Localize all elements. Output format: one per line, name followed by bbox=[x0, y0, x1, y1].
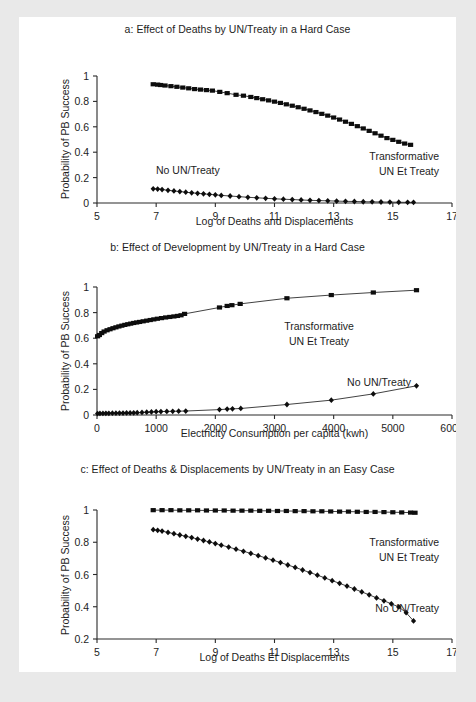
y-tick-label: 0.2 bbox=[74, 383, 89, 395]
data-point bbox=[144, 409, 149, 415]
series-line-0 bbox=[153, 84, 410, 145]
panel-a-plot: 00.20.40.60.8157911131517Log of Deaths a… bbox=[19, 17, 456, 235]
data-point bbox=[270, 557, 275, 563]
data-point bbox=[155, 527, 160, 533]
data-point bbox=[367, 129, 372, 133]
annotation-transformative-line2: UN Et Treaty bbox=[379, 165, 440, 177]
axis-lines bbox=[97, 510, 452, 639]
x-axis-label: Log of Deaths and Displacements bbox=[196, 215, 354, 227]
annotation-no-un-treaty: No UN/Treaty bbox=[347, 376, 412, 388]
data-point bbox=[238, 406, 243, 412]
data-point bbox=[346, 510, 351, 514]
data-point bbox=[213, 508, 218, 512]
data-point bbox=[219, 192, 224, 198]
x-axis-label: Electricity Consumption per capita (kwh) bbox=[181, 427, 368, 439]
data-point bbox=[367, 592, 372, 598]
data-point bbox=[284, 296, 289, 300]
data-point bbox=[230, 406, 235, 412]
data-point bbox=[248, 95, 253, 99]
x-tick-label: 15 bbox=[387, 646, 399, 658]
data-point bbox=[225, 304, 230, 308]
data-point bbox=[322, 575, 327, 581]
annotation-transformative: Transformative bbox=[284, 320, 354, 332]
data-point bbox=[159, 508, 164, 512]
data-point bbox=[300, 567, 305, 573]
data-point bbox=[155, 186, 160, 192]
data-point bbox=[201, 538, 206, 544]
data-point bbox=[241, 94, 246, 98]
y-tick-label: 0 bbox=[83, 197, 89, 209]
data-point bbox=[230, 509, 235, 513]
data-point bbox=[285, 562, 290, 568]
data-point bbox=[245, 194, 250, 200]
annotation-no-un-treaty: No UN/Treaty bbox=[375, 602, 440, 614]
data-point bbox=[254, 195, 259, 201]
data-point bbox=[248, 550, 253, 556]
panel-c-plot: 0.20.40.60.8157911131517Log of Deaths Et… bbox=[19, 457, 456, 672]
y-axis-label: Probability of PB Success bbox=[59, 79, 71, 199]
panel-c: c: Effect of Deaths & Displacements by U… bbox=[19, 457, 456, 672]
data-point bbox=[189, 190, 194, 196]
data-point bbox=[372, 131, 377, 135]
x-tick-label: 7 bbox=[153, 646, 159, 658]
data-point bbox=[361, 199, 366, 205]
data-point bbox=[378, 199, 383, 205]
y-axis-label: Probability of PB Success bbox=[59, 515, 71, 635]
x-tick-label: 17 bbox=[446, 646, 456, 658]
data-point bbox=[149, 409, 154, 415]
y-tick-label: 0.6 bbox=[74, 121, 89, 133]
data-point bbox=[361, 126, 366, 130]
data-point bbox=[159, 528, 164, 534]
annotation-no-un-treaty: No UN/Treaty bbox=[156, 164, 221, 176]
x-tick-label: 17 bbox=[446, 210, 456, 222]
data-point bbox=[349, 122, 354, 126]
series-line-0 bbox=[98, 290, 417, 336]
y-tick-label: 1 bbox=[83, 281, 89, 293]
data-point bbox=[186, 86, 191, 90]
data-point bbox=[396, 140, 401, 144]
x-tick-label: 15 bbox=[387, 210, 399, 222]
data-point bbox=[411, 199, 416, 205]
data-point bbox=[154, 409, 159, 415]
data-point bbox=[307, 108, 312, 112]
data-point bbox=[162, 83, 167, 87]
data-point bbox=[278, 101, 283, 105]
data-point bbox=[414, 383, 419, 389]
x-tick-label: 1000 bbox=[144, 422, 168, 434]
data-point bbox=[402, 141, 407, 145]
data-point bbox=[186, 508, 191, 512]
data-point bbox=[263, 555, 268, 561]
data-point bbox=[171, 531, 176, 537]
data-point bbox=[343, 120, 348, 124]
annotation-transformative: Transformative bbox=[369, 536, 439, 548]
data-point bbox=[371, 290, 376, 294]
data-point bbox=[266, 509, 271, 513]
data-point bbox=[378, 134, 383, 138]
data-point bbox=[293, 565, 298, 571]
panel-b: b: Effect of Development by UN/Treaty in… bbox=[19, 235, 456, 457]
data-point bbox=[219, 542, 224, 548]
data-point bbox=[183, 189, 188, 195]
data-point bbox=[408, 510, 413, 514]
data-point bbox=[195, 536, 200, 542]
data-point bbox=[266, 98, 271, 102]
y-tick-label: 1 bbox=[83, 70, 89, 82]
data-point bbox=[390, 138, 395, 142]
data-point bbox=[272, 100, 277, 104]
figure-page: a: Effect of Deaths by UN/Treaty in a Ha… bbox=[19, 17, 456, 672]
data-point bbox=[177, 508, 182, 512]
data-point bbox=[177, 532, 182, 538]
data-point bbox=[228, 193, 233, 199]
y-axis-label: Probability of PB Success bbox=[59, 291, 71, 411]
x-tick-label: 6000 bbox=[440, 422, 456, 434]
data-point bbox=[284, 402, 289, 408]
data-point bbox=[177, 189, 182, 195]
data-point bbox=[364, 510, 369, 514]
data-point bbox=[229, 303, 234, 307]
data-point bbox=[296, 105, 301, 109]
x-tick-label: 5 bbox=[94, 210, 100, 222]
data-point bbox=[344, 583, 349, 589]
data-point bbox=[165, 187, 170, 193]
data-point bbox=[414, 288, 419, 292]
data-point bbox=[284, 102, 289, 106]
